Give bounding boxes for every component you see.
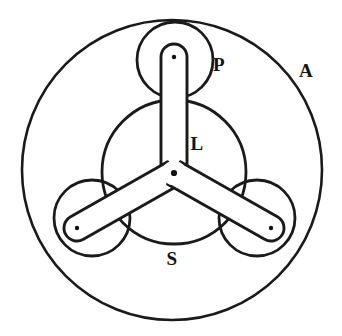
label-planet: P bbox=[213, 54, 225, 75]
label-carrier: L bbox=[190, 133, 203, 154]
carrier-arm-top bbox=[161, 44, 187, 173]
gear-diagram-canvas: P A L S bbox=[0, 0, 342, 336]
label-sun: S bbox=[166, 248, 177, 269]
pivot-dot-center bbox=[171, 170, 177, 176]
epicyclic-gear-figure: P A L S bbox=[0, 0, 342, 336]
pivot-dot-top bbox=[172, 55, 176, 59]
carrier-arm-group bbox=[64, 44, 284, 241]
label-annulus: A bbox=[299, 60, 313, 81]
pivot-dot-left bbox=[75, 226, 79, 230]
pivot-dot-right bbox=[269, 226, 273, 230]
